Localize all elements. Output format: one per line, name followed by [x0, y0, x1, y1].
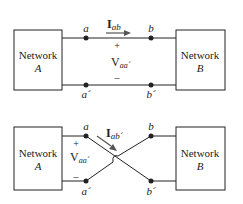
voltage-symbol-2: Vaa´	[70, 150, 90, 165]
network-b-label-1-2: Network	[181, 147, 220, 159]
node-b-prime-label-2: b´	[146, 185, 156, 197]
node-a-prime-label: a´	[81, 88, 91, 100]
network-a-label-2: A	[34, 62, 42, 74]
node-a-prime-label-2: a´	[81, 185, 91, 197]
node-b-prime-dot	[149, 83, 154, 88]
network-a-label-1-2: Network	[19, 147, 58, 159]
voltage-plus: +	[114, 40, 120, 51]
node-a-dot	[84, 36, 89, 41]
current-symbol: Iab	[107, 17, 121, 32]
node-a-label: a	[83, 22, 89, 34]
network-b-label-2: B	[197, 62, 204, 74]
voltage-symbol: Vaa´	[111, 55, 131, 70]
node-a-dot-2	[84, 134, 89, 139]
network-b-label-2-2: B	[197, 160, 204, 172]
node-b-prime-dot-2	[149, 179, 154, 184]
node-a-label-2: a	[83, 120, 89, 132]
node-a-prime-dot	[84, 83, 89, 88]
two-port-diagrams: Network A Network B a b a´ b´ Iab + Vaa´…	[0, 0, 243, 204]
voltage-minus: –	[114, 72, 121, 83]
network-b-label-1: Network	[181, 49, 220, 61]
voltage-minus-2: –	[73, 171, 80, 182]
current-symbol-2: Iab´	[106, 126, 124, 141]
node-b-label-2: b	[148, 120, 154, 132]
network-a-label-2-2: A	[34, 160, 42, 172]
node-b-prime-label: b´	[146, 88, 156, 100]
node-b-dot	[149, 36, 154, 41]
network-a-label-1: Network	[19, 49, 58, 61]
voltage-plus-2: +	[73, 138, 79, 149]
node-a-prime-dot-2	[84, 179, 89, 184]
node-b-label: b	[148, 22, 154, 34]
node-b-dot-2	[149, 134, 154, 139]
